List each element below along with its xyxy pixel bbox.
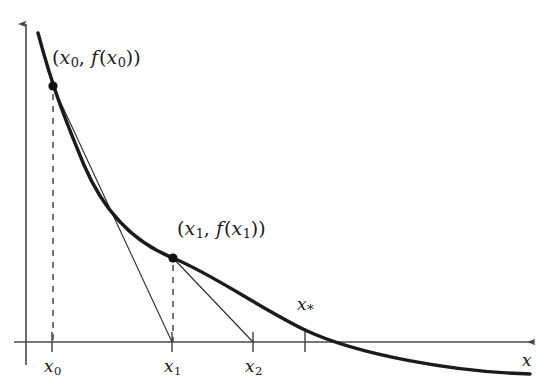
label-point-x0: (x0, f(x0)): [52, 48, 141, 70]
secant-line-1: [173, 258, 253, 342]
tick-label-x2-var: x: [245, 356, 255, 376]
tick-label-x2: x2: [245, 358, 262, 377]
label-point-x1-comma: ,: [204, 217, 216, 239]
label-point-x0-fn: f: [91, 46, 99, 68]
label-point-x0-inner-var: x: [106, 46, 117, 68]
point-marker-x0: [48, 81, 57, 90]
tick-label-x0-sub: 0: [54, 364, 61, 378]
label-point-x1-var: x: [184, 217, 195, 239]
label-point-x0-close: )): [126, 46, 141, 68]
x-axis-label: x: [522, 352, 532, 369]
tick-label-x2-sub: 2: [255, 364, 262, 378]
label-point-x1-inner-var: x: [231, 217, 242, 239]
tick-label-x1: x1: [164, 358, 181, 377]
tick-label-x1-var: x: [164, 356, 174, 376]
label-point-x1: (x1, f(x1)): [177, 219, 266, 241]
label-point-x0-var: x: [59, 46, 70, 68]
label-point-x1-inner-sub: 1: [243, 226, 251, 241]
label-point-x1-close: )): [251, 217, 266, 239]
label-point-x0-sub: 0: [71, 55, 79, 70]
label-point-x0-comma: ,: [79, 46, 91, 68]
tick-label-xstar: x*: [297, 296, 314, 316]
tick-label-x0-var: x: [44, 356, 54, 376]
label-point-x1-sub: 1: [196, 226, 204, 241]
function-curve: [38, 33, 530, 374]
tick-label-x1-sub: 1: [174, 364, 181, 378]
point-marker-x1: [168, 253, 177, 262]
tick-label-xstar-sub: *: [307, 301, 314, 317]
label-point-x1-fn: f: [216, 217, 224, 239]
secant-method-figure: (x0, f(x0)) (x1, f(x1)) x0 x1 x2 x* x: [0, 0, 557, 390]
label-point-x0-inner-sub: 0: [118, 55, 126, 70]
x-axis-label-var: x: [522, 350, 532, 370]
tick-label-x0: x0: [44, 358, 61, 377]
tick-label-xstar-var: x: [297, 294, 307, 314]
